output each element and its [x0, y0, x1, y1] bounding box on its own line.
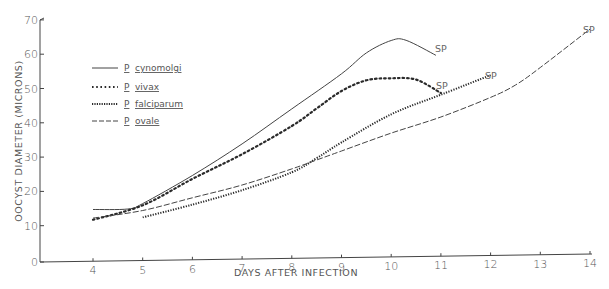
legend-species: ovale [135, 116, 160, 126]
sp-label-falciparum: SP [485, 70, 497, 81]
sp-label-ovale: SP [583, 24, 595, 35]
legend-species: cynomolgi [135, 63, 181, 73]
y-tick-label: 30 [24, 151, 38, 164]
y-tick-label: 70 [24, 14, 38, 27]
y-tick-label: 50 [24, 83, 38, 96]
legend-item-vivax: P vivax [92, 82, 160, 92]
y-axis: 010203040506070 OOCYST DIAMETER (MICRONS… [13, 14, 44, 269]
x-tick-label: 6 [189, 263, 196, 276]
legend-item-falciparum: P falciparum [92, 99, 183, 109]
y-tick-label: 40 [24, 117, 38, 130]
x-tick-label: 12 [484, 258, 498, 271]
legend-genus: P [124, 116, 130, 126]
sp-label-cynomolgi: SP [435, 43, 447, 54]
x-axis-title: DAYS AFTER INFECTION [234, 267, 358, 278]
plot-area [93, 29, 590, 220]
sp-annotations: SP SP SP SP [435, 24, 595, 91]
legend-item-cynomolgi: P cynomolgi [92, 63, 181, 73]
legend-item-ovale: P ovale [92, 116, 160, 126]
sp-label-vivax: SP [436, 80, 448, 91]
y-tick-label: 10 [24, 220, 38, 233]
legend: P cynomolgi P vivax P falciparum P ovale [92, 63, 183, 126]
x-axis: 4567891011121314 DAYS AFTER INFECTION [40, 251, 597, 278]
legend-species: vivax [135, 82, 160, 92]
x-tick-label: 5 [139, 264, 146, 277]
legend-species: falciparum [135, 99, 183, 109]
y-tick-label: 60 [24, 48, 38, 61]
y-axis-title: OOCYST DIAMETER (MICRONS) [13, 60, 24, 222]
x-tick-label: 10 [384, 260, 398, 273]
oocyst-growth-chart: 010203040506070 OOCYST DIAMETER (MICRONS… [0, 0, 609, 289]
legend-genus: P [124, 99, 130, 109]
series-falciparum-line [143, 75, 491, 217]
x-tick-label: 4 [90, 264, 97, 277]
x-tick-label: 13 [533, 258, 547, 271]
y-tick-label: 20 [24, 185, 38, 198]
x-tick-label: 14 [583, 257, 597, 270]
x-tick-label: 11 [434, 259, 448, 272]
legend-genus: P [124, 63, 130, 73]
legend-genus: P [124, 82, 130, 92]
y-tick-label: 0 [31, 256, 38, 269]
